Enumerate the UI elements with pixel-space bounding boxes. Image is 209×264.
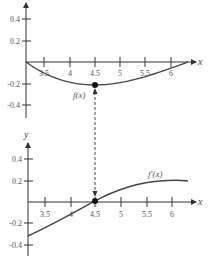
- top-y-tick-label: -0.2: [7, 80, 20, 89]
- bottom-y-tick-label: 0.4: [12, 155, 22, 164]
- bottom-x-tick-label: 6: [170, 210, 174, 219]
- top-x-tick-label: 6: [169, 69, 173, 78]
- top-x-tick-label: 4: [68, 69, 72, 78]
- bottom-y-axis-label: y: [23, 129, 29, 140]
- top-x-axis-label: x: [197, 56, 203, 67]
- f-prime-zero-point: [92, 198, 98, 204]
- top-y-tick-label: 0.4: [10, 15, 20, 24]
- chart-figure: x 0.4 0.2 -0.2 -0.4 3.5 4 4.5 5 5.5 6: [0, 0, 209, 264]
- f-prime-curve-label: f'(x): [148, 169, 162, 179]
- bottom-y-tick-label: 0.2: [12, 177, 22, 186]
- top-x-tick-label: 5: [118, 69, 122, 78]
- top-x-tick-label: 4.5: [90, 69, 100, 78]
- bottom-x-tick-label: 3.5: [40, 210, 50, 219]
- bottom-x-tick-label: 4.5: [90, 210, 100, 219]
- top-plot: x 0.4 0.2 -0.2 -0.4 3.5 4 4.5 5 5.5 6: [7, 3, 203, 118]
- f-curve: [26, 62, 188, 85]
- f-curve-label: f(x): [73, 90, 86, 100]
- down-arrow-icon: [93, 191, 98, 197]
- f-minimum-point: [92, 82, 98, 88]
- bottom-x-tick-label: 5: [119, 210, 123, 219]
- bottom-plot: y x 0.4 0.2 -0.2 -0.4 3.5 4 4.5 5 5.5: [9, 129, 203, 256]
- bottom-x-tick-label: 5.5: [142, 210, 152, 219]
- bottom-y-tick-label: -0.2: [9, 219, 22, 228]
- top-y-tick-label: -0.4: [7, 101, 20, 110]
- bottom-x-axis-label: x: [197, 196, 203, 207]
- dashed-connector: [93, 88, 98, 197]
- f-prime-curve: [28, 180, 188, 236]
- top-y-tick-label: 0.2: [10, 37, 20, 46]
- bottom-y-tick-label: -0.4: [9, 241, 22, 250]
- up-arrow-icon: [93, 88, 98, 94]
